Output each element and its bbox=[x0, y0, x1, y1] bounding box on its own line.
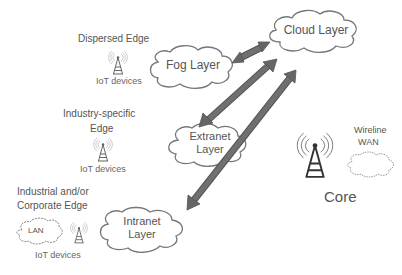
core-tower-icon bbox=[297, 133, 332, 177]
intranet-layer-label-2: Layer bbox=[114, 229, 170, 241]
wan-cloud-shape bbox=[348, 152, 394, 177]
extranet-layer-label-1: Extranet bbox=[182, 131, 238, 143]
intranet-layer-label-1: Intranet bbox=[114, 216, 170, 228]
core-label: Core bbox=[324, 188, 357, 205]
wan-label: WAN bbox=[358, 137, 379, 147]
iot-tower-icon-dispersed bbox=[109, 51, 128, 74]
wireline-label: Wireline bbox=[354, 125, 387, 135]
industry-edge-label-2: Edge bbox=[90, 123, 113, 135]
industrial-iot-label: IoT devices bbox=[35, 250, 81, 260]
industrial-edge-label-1: Industrial and/or bbox=[17, 186, 89, 198]
industry-edge-label-1: Industry-specific bbox=[63, 108, 135, 120]
industry-iot-label: IoT devices bbox=[80, 164, 126, 174]
extranet-layer-label-2: Layer bbox=[182, 144, 238, 156]
fog-layer-label: Fog Layer bbox=[158, 59, 228, 72]
lan-label: LAN bbox=[28, 226, 44, 235]
dispersed-iot-label: IoT devices bbox=[96, 76, 142, 86]
cloud-layer-label: Cloud Layer bbox=[276, 24, 356, 37]
iot-tower-icon-industry bbox=[94, 138, 113, 161]
dispersed-edge-label: Dispersed Edge bbox=[78, 33, 149, 45]
arrow-fog-cloud bbox=[232, 42, 270, 63]
iot-tower-icon-industrial bbox=[71, 222, 88, 243]
industrial-edge-label-2: Corporate Edge bbox=[17, 200, 88, 212]
